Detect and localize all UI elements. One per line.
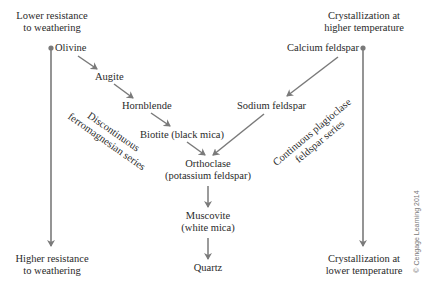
left-top-label: Lower resistance to weathering <box>11 10 93 34</box>
left-top-label-line1: Lower resistance <box>11 10 93 22</box>
mineral-calcium-feldspar: Calcium feldspar <box>287 42 359 54</box>
left-bottom-label-line1: Higher resistance <box>10 253 94 265</box>
left-bottom-label: Higher resistance to weathering <box>10 253 94 277</box>
right-bottom-label-line1: Crystallization at <box>318 253 410 265</box>
arrow-augite-hornblende <box>114 84 133 98</box>
arrow-hornblende-biotite <box>151 113 170 126</box>
mineral-muscovite-desc: (white mica) <box>168 222 248 234</box>
right-bottom-label: Crystallization at lower temperature <box>318 253 410 277</box>
mineral-orthoclase: Orthoclase (potassium feldspar) <box>158 158 258 182</box>
mineral-biotite: Biotite (black mica) <box>140 129 224 141</box>
right-bottom-label-line2: lower temperature <box>318 265 410 277</box>
mineral-quartz: Quartz <box>178 262 238 274</box>
right-axis-arrow <box>360 45 365 246</box>
mineral-orthoclase-name: Orthoclase <box>158 158 258 170</box>
right-top-label-line1: Crystallization at <box>318 10 410 22</box>
left-axis-arrow <box>48 45 53 246</box>
right-top-label-line2: higher temperature <box>318 22 410 34</box>
mineral-hornblende: Hornblende <box>122 100 172 112</box>
left-bottom-label-line2: to weathering <box>10 265 94 277</box>
mineral-muscovite-name: Muscovite <box>168 210 248 222</box>
mineral-orthoclase-desc: (potassium feldspar) <box>158 170 258 182</box>
mineral-augite: Augite <box>95 71 124 83</box>
arrow-calcium-sodium <box>287 57 338 96</box>
mineral-sodium-feldspar: Sodium feldspar <box>237 100 306 112</box>
arrow-biotite-orthoclase <box>187 142 205 155</box>
mineral-olivine: Olivine <box>55 42 87 54</box>
left-top-label-line2: to weathering <box>11 22 93 34</box>
arrow-olivine-augite <box>78 56 97 69</box>
mineral-muscovite: Muscovite (white mica) <box>168 210 248 234</box>
right-top-label: Crystallization at higher temperature <box>318 10 410 34</box>
copyright-notice: © Cengage Learning 2014 <box>413 182 420 282</box>
